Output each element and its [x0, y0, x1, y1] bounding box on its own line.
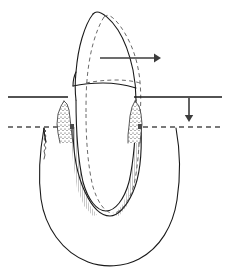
- dental-diagram-figure: Tooth displacement in alveolar socket di…: [0, 0, 228, 273]
- diagram-canvas: [0, 0, 228, 273]
- tooth-crown: [73, 12, 136, 100]
- vertical-displacement-arrow: [185, 98, 193, 122]
